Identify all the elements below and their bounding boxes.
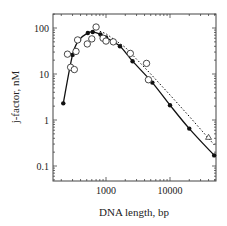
- x-tick-label: 1000: [96, 185, 116, 196]
- series-lines: [63, 31, 214, 155]
- open-point: [145, 77, 151, 83]
- series-markers: [61, 24, 216, 158]
- filled-point: [187, 126, 191, 130]
- x-tick-label: 10000: [158, 185, 183, 196]
- open-point: [127, 50, 133, 56]
- triangle-point: [206, 134, 212, 139]
- filled-point: [86, 31, 90, 35]
- solid-line: [63, 32, 214, 156]
- open-point: [103, 38, 109, 44]
- chart: 1000100001001010.1 DNA length, bp j-fact…: [0, 0, 227, 226]
- y-tick-label: 1: [44, 115, 49, 126]
- open-point: [73, 48, 79, 54]
- open-point: [110, 39, 116, 45]
- open-point: [93, 24, 99, 30]
- open-point: [71, 66, 77, 72]
- tick-labels: 1000100001001010.1: [34, 23, 183, 197]
- open-point: [74, 37, 80, 43]
- x-axis-label: DNA length, bp: [99, 206, 169, 218]
- open-point: [89, 36, 95, 42]
- filled-point: [130, 59, 134, 63]
- filled-point: [61, 101, 65, 105]
- y-tick-label: 100: [34, 23, 49, 34]
- open-point: [143, 60, 149, 66]
- filled-point: [168, 103, 172, 107]
- y-axis-label: j-factor, nM: [9, 70, 21, 124]
- y-tick-label: 10: [39, 69, 49, 80]
- y-tick-label: 0.1: [37, 161, 50, 172]
- filled-point: [212, 153, 216, 157]
- filled-point: [118, 44, 122, 48]
- open-point: [64, 51, 70, 57]
- filled-point: [91, 30, 95, 34]
